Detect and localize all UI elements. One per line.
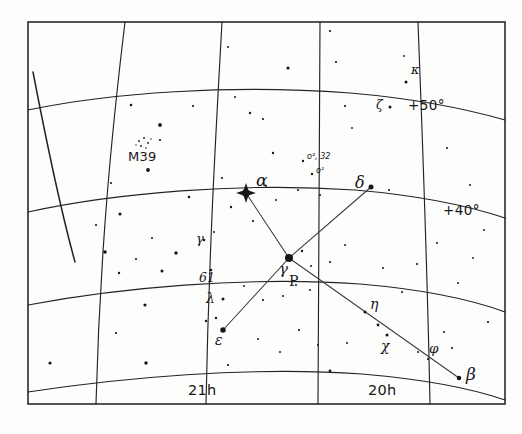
star-label-p-cygni: P — [289, 274, 298, 288]
field-star — [227, 46, 229, 48]
field-star — [103, 250, 107, 254]
field-stars — [48, 30, 489, 373]
field-star — [344, 105, 346, 107]
field-star — [388, 189, 390, 191]
star-label-epsilon: ε — [215, 333, 223, 347]
field-star — [297, 189, 299, 191]
star-phi — [427, 358, 429, 360]
star-label-gamma-center: γ — [279, 262, 288, 277]
star-beta — [457, 376, 462, 381]
field-star — [451, 347, 453, 349]
field-star — [230, 206, 232, 208]
field-star — [469, 184, 471, 186]
field-star — [188, 196, 191, 199]
field-star — [310, 265, 312, 267]
field-star — [282, 295, 284, 297]
field-star — [416, 263, 418, 265]
star-zeta — [389, 106, 392, 109]
field-star — [257, 338, 259, 340]
field-star — [48, 361, 51, 364]
field-star — [95, 224, 97, 226]
star-omicron2 — [302, 160, 304, 162]
field-star — [252, 220, 254, 222]
field-star — [346, 342, 348, 344]
star-label-61-cygni: 61 — [199, 272, 215, 285]
star-label-alpha: α — [256, 172, 267, 189]
star-label-zeta: ζ — [376, 99, 383, 112]
star-label-chi: χ — [381, 339, 389, 353]
star-label-eta: η — [370, 297, 378, 311]
field-star — [215, 317, 217, 319]
field-star — [143, 303, 146, 306]
star-alpha — [236, 183, 256, 203]
star-label-kappa: κ — [411, 63, 420, 76]
star-label-omicron2: o², 32 — [307, 153, 330, 161]
field-star — [472, 257, 474, 259]
star-chart: α γ γ δ ε β η χ φ λ κ ζ P M39 o², 32 o¹ … — [0, 0, 522, 434]
field-star — [417, 351, 419, 353]
line-alpha-gamma — [246, 193, 289, 258]
field-star — [377, 324, 380, 327]
field-star — [309, 289, 311, 291]
star-label-gamma-left: γ — [196, 232, 204, 245]
declination-label-50: +50° — [408, 99, 445, 113]
field-star — [483, 229, 485, 231]
field-star — [118, 212, 121, 215]
named-stars — [203, 81, 462, 381]
star-label-beta: β — [466, 366, 476, 383]
field-star — [144, 361, 147, 364]
field-star — [351, 127, 353, 129]
field-star — [115, 332, 117, 334]
field-star — [262, 118, 264, 120]
field-star — [249, 112, 251, 114]
ra-label-21h: 21h — [188, 383, 217, 398]
field-star — [234, 96, 236, 98]
field-star — [329, 370, 332, 373]
field-star — [262, 299, 264, 301]
field-star — [301, 250, 303, 252]
star-chi — [386, 334, 389, 337]
field-star — [317, 344, 319, 346]
object-label-m39: M39 — [128, 150, 157, 163]
field-star — [135, 258, 137, 260]
ra-gridline-fragment — [33, 72, 75, 262]
ra-label-20h: 20h — [368, 383, 397, 398]
field-star — [457, 282, 459, 284]
line-gamma-delta — [289, 187, 371, 258]
star-omicron1 — [311, 173, 313, 175]
field-star — [446, 147, 448, 149]
field-star — [487, 321, 489, 323]
field-star — [272, 152, 274, 154]
dec-gridline-30 — [28, 371, 505, 400]
field-star — [344, 244, 346, 246]
star-label-delta: δ — [355, 175, 365, 191]
field-star — [130, 104, 133, 107]
declination-label-40: +40° — [443, 204, 480, 218]
field-star — [146, 168, 150, 172]
field-star — [443, 331, 445, 333]
star-kappa — [405, 81, 408, 84]
field-star — [298, 329, 300, 331]
ra-gridline-20h-5 — [318, 22, 320, 404]
field-star — [192, 105, 194, 107]
field-star — [329, 30, 331, 32]
field-star — [213, 231, 215, 233]
field-star — [403, 55, 405, 57]
line-gamma-beta — [289, 258, 459, 378]
star-lambda — [222, 298, 225, 301]
field-star — [158, 123, 162, 127]
right-ascension-gridlines — [96, 22, 430, 404]
field-star — [227, 364, 229, 366]
field-star — [161, 270, 164, 273]
field-star — [436, 242, 438, 244]
field-star — [382, 267, 384, 269]
star-label-phi: φ — [429, 342, 438, 356]
field-star — [401, 291, 403, 293]
field-star — [174, 251, 177, 254]
field-star — [205, 320, 207, 322]
field-star — [319, 194, 321, 196]
field-star — [221, 177, 223, 179]
field-star — [286, 66, 289, 69]
field-star — [335, 61, 337, 63]
field-star — [118, 272, 120, 274]
